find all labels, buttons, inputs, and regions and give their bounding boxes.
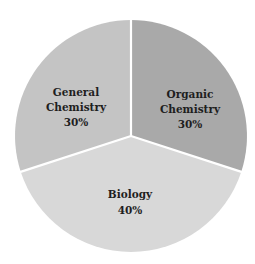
label-biology-line1: Biology [108, 188, 153, 200]
label-biology-value: 40% [118, 204, 143, 216]
label-organic-chemistry-value: 30% [178, 118, 203, 130]
label-organic-chemistry-line2: Chemistry [160, 103, 221, 115]
label-general-chemistry-line1: General [53, 86, 99, 98]
label-organic-chemistry-line1: Organic [167, 88, 214, 100]
label-general-chemistry-line2: Chemistry [46, 101, 107, 113]
pie-chart: General Chemistry 30% Organic Chemistry … [0, 0, 255, 264]
label-general-chemistry-value: 30% [64, 116, 89, 128]
